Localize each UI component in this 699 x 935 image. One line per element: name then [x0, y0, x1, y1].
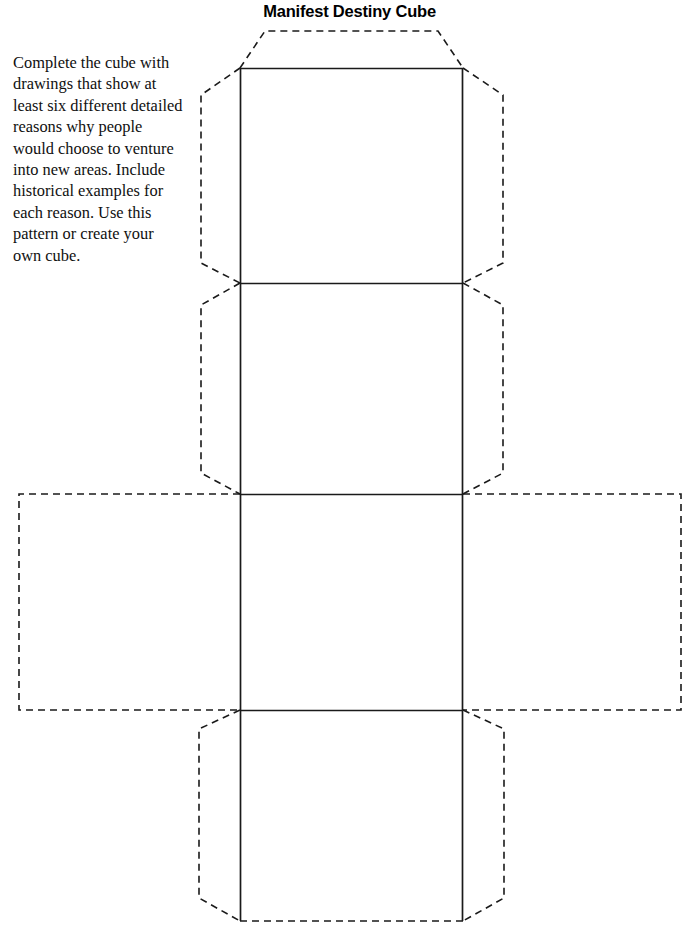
worksheet-page: Manifest Destiny Cube Complete the cube … — [0, 0, 699, 935]
flap-lower-right — [463, 710, 504, 921]
flap-middle-left — [201, 283, 240, 494]
flap-top — [240, 31, 463, 68]
flap-upper-right — [463, 68, 503, 283]
flap-middle-right — [463, 283, 503, 494]
flap-lower-left — [199, 710, 240, 921]
face-left — [19, 494, 240, 710]
flap-upper-left — [201, 68, 240, 283]
face-right — [463, 494, 681, 710]
cube-net-diagram — [0, 0, 699, 935]
